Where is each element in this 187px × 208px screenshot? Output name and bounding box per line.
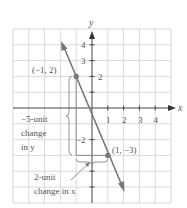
y-tick-4: 4 bbox=[81, 40, 86, 50]
dx-label-line1: 2-unit bbox=[34, 172, 56, 182]
point-label-neg1-2: (−1, 2) bbox=[32, 65, 57, 75]
graph-line bbox=[63, 45, 123, 188]
coordinate-plane: x y 1 2 3 4 4 3 2 −2 (−1, 2) (1, −3) −5-… bbox=[0, 0, 187, 208]
dy-label-line2: change bbox=[21, 128, 46, 138]
y-tick-2: 2 bbox=[98, 72, 103, 82]
x-tick-2: 2 bbox=[122, 115, 127, 125]
dy-label-line3: in y bbox=[21, 142, 35, 152]
x-tick-4: 4 bbox=[154, 115, 159, 125]
point-1-neg3 bbox=[105, 153, 110, 158]
x-axis-label: x bbox=[177, 102, 183, 113]
y-tick-neg2: −2 bbox=[76, 135, 86, 145]
point-neg1-2 bbox=[74, 74, 79, 79]
y-axis-arrow-icon bbox=[89, 31, 95, 39]
x-tick-3: 3 bbox=[138, 115, 143, 125]
line-arrow-top-icon bbox=[61, 41, 68, 51]
y-tick-3: 3 bbox=[81, 56, 86, 66]
x-axis-arrow-icon bbox=[168, 105, 176, 111]
x-tick-1: 1 bbox=[106, 115, 111, 125]
dx-label-line2: change in x bbox=[34, 186, 76, 196]
dy-label-line1: −5-unit bbox=[21, 114, 48, 124]
y-axis-label: y bbox=[88, 17, 94, 28]
point-label-1-neg3: (1, −3) bbox=[112, 145, 137, 155]
